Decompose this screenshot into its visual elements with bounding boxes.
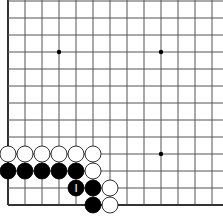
stone-body [102, 180, 118, 196]
white-stone[interactable] [68, 146, 84, 162]
stone-body [85, 197, 101, 213]
white-stone[interactable] [0, 146, 16, 162]
go-board[interactable]: I [0, 0, 223, 219]
stone-body [34, 146, 50, 162]
black-stone[interactable] [68, 163, 84, 179]
star-point [159, 50, 163, 54]
black-stone[interactable]: I [68, 180, 84, 196]
stone-body [17, 163, 33, 179]
stone-body [85, 146, 101, 162]
stone-label: I [74, 182, 77, 195]
black-stone[interactable] [0, 163, 16, 179]
white-stone[interactable] [102, 197, 118, 213]
white-stone[interactable] [85, 163, 101, 179]
white-stone[interactable] [17, 146, 33, 162]
white-stone[interactable] [85, 146, 101, 162]
stone-body [102, 197, 118, 213]
black-stone[interactable] [85, 197, 101, 213]
star-point [159, 152, 163, 156]
stone-body [68, 163, 84, 179]
black-stone[interactable] [85, 180, 101, 196]
black-stone[interactable] [17, 163, 33, 179]
stone-body [0, 163, 16, 179]
stone-body [85, 163, 101, 179]
black-stone[interactable] [34, 163, 50, 179]
stone-body [34, 163, 50, 179]
stone-body [51, 163, 67, 179]
stone-body [17, 146, 33, 162]
white-stone[interactable] [34, 146, 50, 162]
stone-body [51, 146, 67, 162]
stone-body [0, 146, 16, 162]
stone-body [68, 146, 84, 162]
black-stone[interactable] [51, 163, 67, 179]
white-stone[interactable] [51, 146, 67, 162]
star-point [57, 50, 61, 54]
stone-body [85, 180, 101, 196]
white-stone[interactable] [102, 180, 118, 196]
